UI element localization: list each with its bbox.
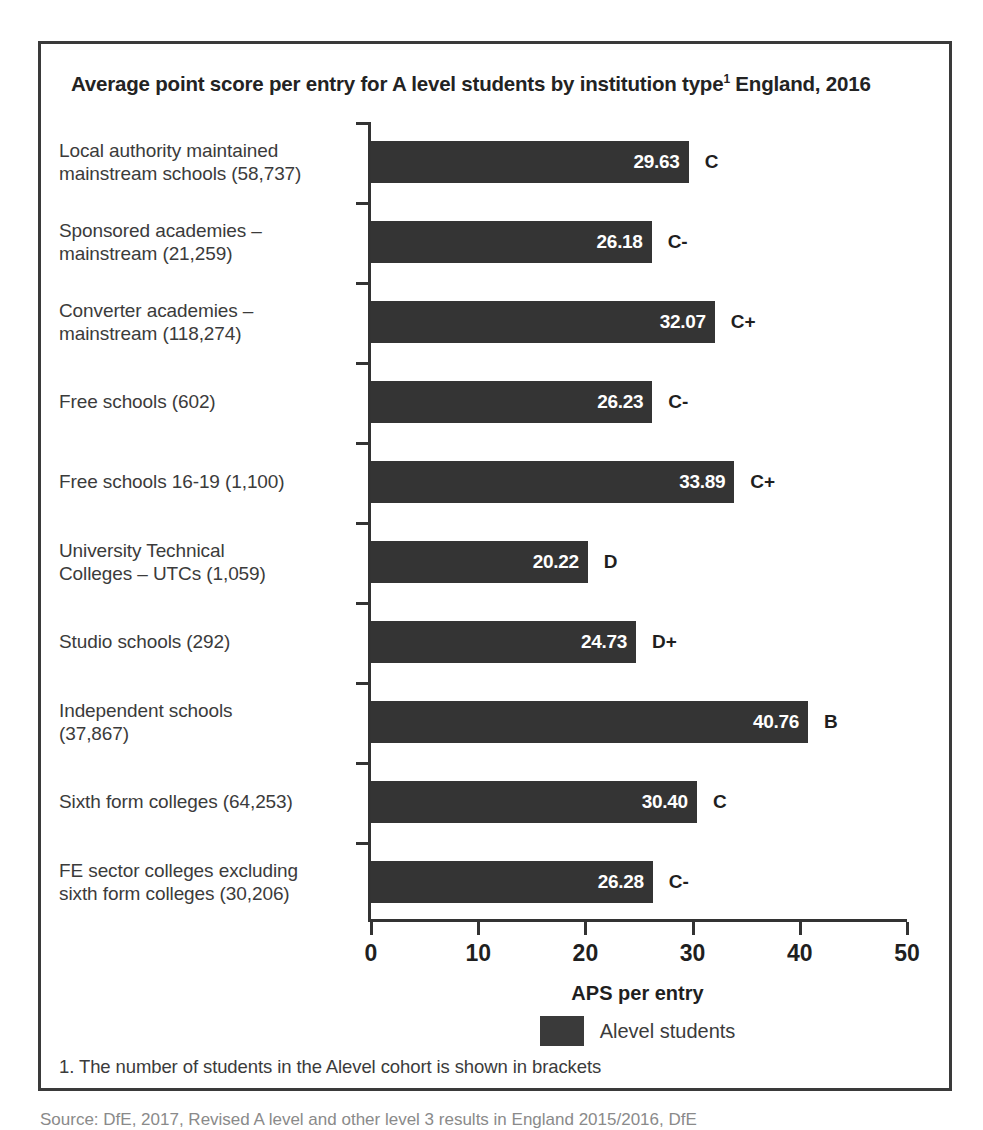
category-label-line: FE sector colleges excluding xyxy=(59,859,359,882)
source-line: Source: DfE, 2017, Revised A level and o… xyxy=(40,1110,697,1130)
y-axis-tick xyxy=(356,202,368,205)
chart-footnote: 1. The number of students in the Alevel … xyxy=(59,1056,601,1078)
bar-value-label: 29.63 xyxy=(634,151,680,173)
category-label-line: sixth form colleges (30,206) xyxy=(59,882,359,905)
chart-legend: Alevel students xyxy=(368,1016,907,1046)
bar-value-label: 26.28 xyxy=(598,871,644,893)
chart-row: Free schools 16-19 (1,100)33.89C+ xyxy=(41,442,955,522)
y-axis-tick xyxy=(356,602,368,605)
bar-grade-annotation: C- xyxy=(668,391,688,413)
category-label-line: University Technical xyxy=(59,539,359,562)
legend-swatch-alevel-students xyxy=(540,1016,584,1046)
chart-row: FE sector colleges excludingsixth form c… xyxy=(41,842,955,922)
category-label-line: mainstream schools (58,737) xyxy=(59,162,359,185)
chart-row: Converter academies –mainstream (118,274… xyxy=(41,282,955,362)
category-label-line: Colleges – UTCs (1,059) xyxy=(59,562,359,585)
y-axis-tick xyxy=(356,682,368,685)
category-label: Studio schools (292) xyxy=(59,630,359,653)
x-axis-tick xyxy=(692,922,695,935)
x-axis-tick-label: 10 xyxy=(465,940,491,967)
bar[interactable]: 26.18 xyxy=(371,221,652,263)
bar-grade-annotation: B xyxy=(824,711,838,733)
category-label-line: Free schools 16-19 (1,100) xyxy=(59,470,359,493)
bar-grade-annotation: D xyxy=(604,551,618,573)
bar-value-label: 26.18 xyxy=(597,231,643,253)
bar[interactable]: 33.89 xyxy=(371,461,734,503)
x-axis-tick-label: 40 xyxy=(787,940,813,967)
x-axis-tick-label: 20 xyxy=(573,940,599,967)
category-label-line: Sponsored academies – xyxy=(59,219,359,242)
category-label-line: Sixth form colleges (64,253) xyxy=(59,790,359,813)
y-axis-tick xyxy=(356,762,368,765)
y-axis-tick xyxy=(356,122,368,125)
bar[interactable]: 24.73 xyxy=(371,621,636,663)
bar-grade-annotation: C+ xyxy=(750,471,775,493)
bar-value-label: 30.40 xyxy=(642,791,688,813)
x-axis-tick xyxy=(799,922,802,935)
x-axis-tick xyxy=(370,922,373,935)
x-axis-tick-label: 30 xyxy=(680,940,706,967)
bar-value-label: 26.23 xyxy=(597,391,643,413)
bar-grade-annotation: C- xyxy=(669,871,689,893)
bar-grade-annotation: C xyxy=(713,791,727,813)
bar[interactable]: 26.23 xyxy=(371,381,652,423)
bar[interactable]: 40.76 xyxy=(371,701,808,743)
x-axis-tick xyxy=(906,922,909,935)
category-label: Independent schools(37,867) xyxy=(59,699,359,745)
category-label: Sponsored academies –mainstream (21,259) xyxy=(59,219,359,265)
category-label: Sixth form colleges (64,253) xyxy=(59,790,359,813)
y-axis-tick xyxy=(356,362,368,365)
bar[interactable]: 32.07 xyxy=(371,301,715,343)
x-axis-tick xyxy=(477,922,480,935)
category-label: University TechnicalColleges – UTCs (1,0… xyxy=(59,539,359,585)
chart-row: Free schools (602)26.23C- xyxy=(41,362,955,442)
category-label-line: Local authority maintained xyxy=(59,139,359,162)
category-label-line: mainstream (118,274) xyxy=(59,322,359,345)
category-label-line: (37,867) xyxy=(59,722,359,745)
x-axis-tick-label: 0 xyxy=(365,940,378,967)
category-label-line: Free schools (602) xyxy=(59,390,359,413)
chart-row: Studio schools (292)24.73D+ xyxy=(41,602,955,682)
bar-grade-annotation: D+ xyxy=(652,631,677,653)
chart-row: Local authority maintainedmainstream sch… xyxy=(41,122,955,202)
bar[interactable]: 26.28 xyxy=(371,861,653,903)
category-label-line: Converter academies – xyxy=(59,299,359,322)
bar-value-label: 40.76 xyxy=(753,711,799,733)
chart-row: University TechnicalColleges – UTCs (1,0… xyxy=(41,522,955,602)
chart-row: Sixth form colleges (64,253)30.40C xyxy=(41,762,955,842)
bar-value-label: 20.22 xyxy=(533,551,579,573)
bar-value-label: 33.89 xyxy=(679,471,725,493)
bar-grade-annotation: C+ xyxy=(731,311,756,333)
y-axis-tick xyxy=(356,842,368,845)
bar[interactable]: 20.22 xyxy=(371,541,588,583)
chart-row: Sponsored academies –mainstream (21,259)… xyxy=(41,202,955,282)
category-label: Free schools 16-19 (1,100) xyxy=(59,470,359,493)
x-axis-title: APS per entry xyxy=(368,982,907,1005)
bar-value-label: 24.73 xyxy=(581,631,627,653)
category-label-line: mainstream (21,259) xyxy=(59,242,359,265)
chart-row: Independent schools(37,867)40.76B xyxy=(41,682,955,762)
category-label: Converter academies –mainstream (118,274… xyxy=(59,299,359,345)
chart-figure-frame: Average point score per entry for A leve… xyxy=(38,41,952,1091)
bar[interactable]: 30.40 xyxy=(371,781,697,823)
y-axis-tick xyxy=(356,522,368,525)
bar[interactable]: 29.63 xyxy=(371,141,689,183)
category-label: Free schools (602) xyxy=(59,390,359,413)
category-label: Local authority maintainedmainstream sch… xyxy=(59,139,359,185)
bar-grade-annotation: C- xyxy=(668,231,688,253)
legend-label-alevel-students: Alevel students xyxy=(600,1020,736,1043)
plot-area: Local authority maintainedmainstream sch… xyxy=(41,44,955,1094)
bar-grade-annotation: C xyxy=(705,151,719,173)
y-axis-tick xyxy=(356,442,368,445)
x-axis-tick xyxy=(584,922,587,935)
category-label-line: Studio schools (292) xyxy=(59,630,359,653)
category-label: FE sector colleges excludingsixth form c… xyxy=(59,859,359,905)
x-axis-tick-label: 50 xyxy=(894,940,920,967)
bar-value-label: 32.07 xyxy=(660,311,706,333)
y-axis-tick xyxy=(356,282,368,285)
category-label-line: Independent schools xyxy=(59,699,359,722)
